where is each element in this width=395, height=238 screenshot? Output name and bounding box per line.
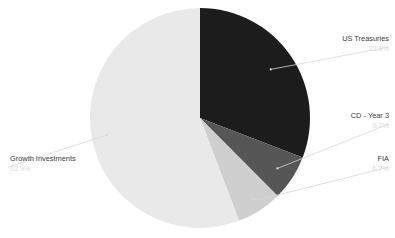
callout-us-treasuries: US Treasuries 22.8% (342, 35, 389, 53)
callout-value-growth-investments: 63.9% (10, 165, 76, 173)
leader-dot-cd-year-3 (276, 167, 278, 169)
callout-label-fia: FIA (373, 155, 389, 164)
leader-dot-us-treasuries (270, 68, 272, 70)
callout-label-growth-investments: Growth Investments (10, 155, 76, 164)
callout-value-cd-year-3: 6.7% (351, 122, 389, 130)
callout-label-cd-year-3: CD - Year 3 (351, 112, 389, 121)
callout-label-us-treasuries: US Treasuries (342, 35, 389, 44)
callout-fia: FIA 6.7% (373, 155, 389, 173)
leader-dot-fia (251, 198, 253, 200)
pie-chart-canvas (0, 0, 395, 238)
callout-cd-year-3: CD - Year 3 6.7% (351, 112, 389, 130)
leader-dot-growth-investments (106, 134, 108, 136)
callout-value-us-treasuries: 22.8% (342, 45, 389, 53)
callout-growth-investments: Growth Investments 63.9% (10, 155, 76, 173)
callout-value-fia: 6.7% (373, 165, 389, 173)
pie-chart: US Treasuries 22.8% CD - Year 3 6.7% FIA… (0, 0, 395, 238)
